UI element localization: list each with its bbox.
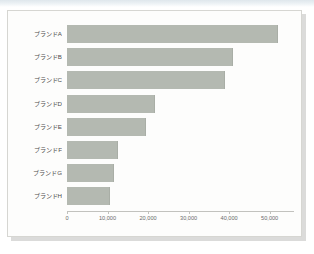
bar-track (67, 141, 299, 159)
x-axis-tick (229, 211, 230, 214)
bar-category-label: ブランドC (8, 71, 62, 89)
bar-fill (67, 141, 118, 159)
chart-card: ブランドAブランドBブランドCブランドDブランドEブランドFブランドGブランドH… (7, 10, 302, 237)
bar-fill (67, 95, 155, 113)
bar-track (67, 25, 299, 43)
x-axis-line (67, 211, 294, 212)
x-axis-tick (270, 211, 271, 214)
bar-fill (67, 187, 110, 205)
bar-fill (67, 48, 233, 66)
bar-category-label: ブランドH (8, 187, 62, 205)
bar-category-label: ブランドE (8, 118, 62, 136)
x-axis-tick (67, 211, 68, 214)
bar-track (67, 48, 299, 66)
scan-edge-band (0, 0, 314, 7)
bar-track (67, 118, 299, 136)
bar-category-label: ブランドB (8, 48, 62, 66)
bar-track (67, 95, 299, 113)
bar-track (67, 187, 299, 205)
x-axis-tick-label: 0 (65, 215, 68, 221)
bar-fill (67, 118, 146, 136)
bar-category-label: ブランドG (8, 164, 62, 182)
x-axis-tick (148, 211, 149, 214)
x-axis-tick (189, 211, 190, 214)
bar-fill (67, 71, 225, 89)
bar-fill (67, 164, 114, 182)
bar-category-label: ブランドA (8, 25, 62, 43)
bar-fill (67, 25, 278, 43)
bar-category-label: ブランドF (8, 141, 62, 159)
bar-track (67, 71, 299, 89)
x-axis-tick (108, 211, 109, 214)
bar-category-label: ブランドD (8, 95, 62, 113)
x-axis-tick-label: 30,000 (180, 215, 197, 221)
x-axis-tick-label: 40,000 (221, 215, 238, 221)
x-axis-tick-label: 10,000 (99, 215, 116, 221)
scanned-chart-page: ブランドAブランドBブランドCブランドDブランドEブランドFブランドGブランドH… (0, 0, 314, 254)
bar-track (67, 164, 299, 182)
bar-chart-plot-area: ブランドAブランドBブランドCブランドDブランドEブランドFブランドGブランドH… (8, 11, 303, 238)
x-axis-tick-label: 50,000 (261, 215, 278, 221)
x-axis-tick-label: 20,000 (140, 215, 157, 221)
